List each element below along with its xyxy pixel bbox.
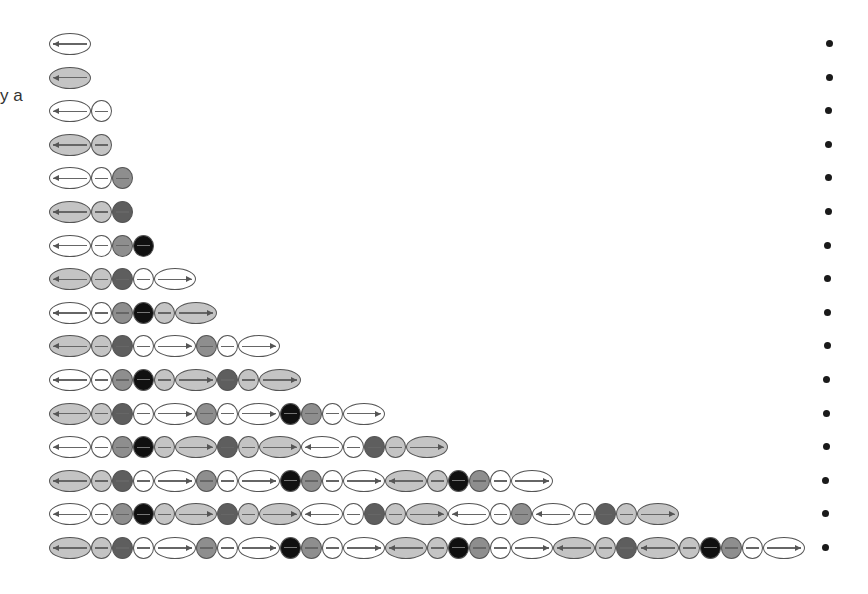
circle-lg (154, 436, 175, 458)
arrow-left-icon (53, 310, 59, 316)
circle-dg (112, 470, 133, 492)
circle-mg (112, 167, 133, 189)
ellipsis-dot (825, 141, 832, 148)
ellipsis-dot (823, 410, 830, 417)
circle-lg (91, 335, 112, 357)
ellipsis-dot (825, 174, 832, 181)
arrow-left-icon (53, 243, 59, 249)
arrow-left-icon (53, 108, 59, 114)
circle-lg (154, 369, 175, 391)
arrow-left-icon (305, 444, 311, 450)
sequence-row-5 (49, 167, 133, 189)
ellipse-lg (637, 537, 679, 559)
axis-line (389, 447, 402, 448)
axis-line (116, 346, 129, 347)
ellipse-lg (49, 134, 91, 156)
axis-line (137, 279, 150, 280)
sequence-row-8 (49, 268, 196, 290)
ellipse-lg (49, 201, 91, 223)
ellipse-w (238, 335, 280, 357)
axis-line (95, 279, 108, 280)
circle-dg (364, 436, 385, 458)
arrow-right-icon (375, 411, 381, 417)
arrow-right-icon (186, 545, 192, 551)
arrow-right-icon (186, 343, 192, 349)
axis-line (494, 547, 507, 548)
axis-line (116, 279, 129, 280)
sequence-row-1 (49, 33, 91, 55)
axis-line (326, 413, 339, 414)
circle-w (217, 470, 238, 492)
axis-line (95, 547, 108, 548)
ellipsis-dot (824, 309, 831, 316)
axis-line (137, 480, 150, 481)
arrow-left-icon (53, 377, 59, 383)
ellipse-w (154, 537, 196, 559)
arrow-right-icon (543, 478, 549, 484)
circle-lg (679, 537, 700, 559)
truncated-caption-text: y a (0, 86, 23, 106)
circle-bk (280, 537, 301, 559)
circle-dg (217, 503, 238, 525)
circle-mg (469, 470, 490, 492)
arrow-left-icon (389, 545, 395, 551)
circle-mg (469, 537, 490, 559)
arrow-right-icon (291, 444, 297, 450)
axis-line (347, 514, 360, 515)
circle-w (343, 436, 364, 458)
axis-line (116, 245, 129, 246)
ellipsis-dot (824, 275, 831, 282)
ellipse-lg (385, 470, 427, 492)
ellipse-w (49, 503, 91, 525)
ellipse-w (49, 235, 91, 257)
arrow-right-icon (207, 377, 213, 383)
axis-line (95, 211, 108, 212)
ellipse-w (238, 403, 280, 425)
axis-line (284, 547, 297, 548)
circle-w (322, 470, 343, 492)
sequence-row-15 (49, 503, 679, 525)
axis-line (242, 447, 255, 448)
circle-lg (385, 436, 406, 458)
circle-dg (112, 335, 133, 357)
circle-mg (301, 403, 322, 425)
ellipse-lg (49, 268, 91, 290)
ellipsis-dot (822, 477, 829, 484)
arrow-right-icon (375, 545, 381, 551)
circle-lg (238, 503, 259, 525)
circle-w (133, 268, 154, 290)
circle-w (343, 503, 364, 525)
sequence-row-12 (49, 403, 385, 425)
ellipse-w (763, 537, 805, 559)
axis-line (95, 144, 108, 145)
ellipse-w (301, 436, 343, 458)
ellipse-w (154, 335, 196, 357)
sequence-row-7 (49, 235, 154, 257)
axis-line (95, 312, 108, 313)
axis-line (284, 413, 297, 414)
circle-dg (112, 201, 133, 223)
circle-w (217, 335, 238, 357)
ellipse-w (154, 403, 196, 425)
axis-line (746, 547, 759, 548)
circle-dg (217, 436, 238, 458)
axis-line (95, 178, 108, 179)
ellipse-w (49, 302, 91, 324)
circle-bk (280, 403, 301, 425)
arrow-left-icon (53, 343, 59, 349)
ellipse-w (511, 470, 553, 492)
circle-lg (91, 537, 112, 559)
circle-dg (112, 403, 133, 425)
arrow-left-icon (53, 75, 59, 81)
axis-line (389, 514, 402, 515)
ellipse-w (511, 537, 553, 559)
arrow-right-icon (207, 444, 213, 450)
arrow-left-icon (557, 545, 563, 551)
axis-line (137, 547, 150, 548)
ellipse-w (49, 33, 91, 55)
axis-line (137, 346, 150, 347)
axis-line (158, 514, 171, 515)
arrow-left-icon (53, 142, 59, 148)
arrow-right-icon (375, 478, 381, 484)
axis-line (578, 514, 591, 515)
